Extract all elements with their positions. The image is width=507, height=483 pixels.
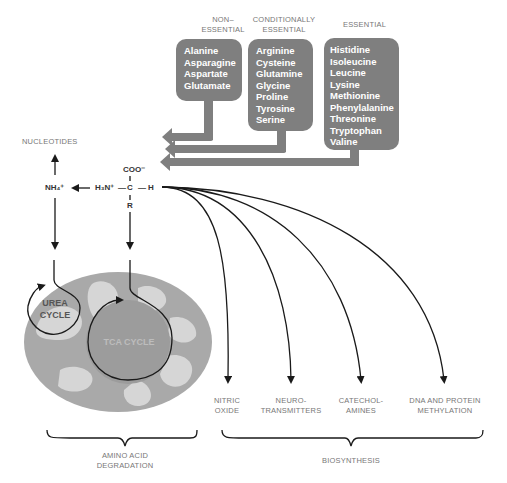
amino-acid: Proline: [256, 91, 313, 103]
product-catecholamines: CATECHOL- AMINES: [334, 396, 388, 416]
alpha-carbon: C: [127, 183, 133, 192]
amino-acid: Arginine: [256, 45, 313, 57]
product-line: OXIDE: [210, 406, 244, 416]
tca-cycle-label: TCA CYCLE: [98, 336, 160, 348]
amino-acid: Cysteine: [256, 57, 313, 69]
urea-cycle-label: UREA CYCLE: [35, 297, 75, 321]
amino-acid: Phenylalanine: [330, 102, 399, 114]
group-line: AMINO ACID: [90, 451, 160, 461]
header-conditionally-essential: CONDITIONALLY ESSENTIAL: [244, 15, 324, 35]
amino-acid: Alanine: [184, 45, 242, 57]
amino-acid: Glutamine: [256, 68, 313, 80]
header-line: ESSENTIAL: [198, 25, 248, 35]
bond: —: [138, 183, 146, 192]
amino-acid: Glutamate: [184, 80, 242, 92]
amino-acid: Lysine: [330, 79, 399, 91]
header-line: NON–: [198, 15, 248, 25]
header-line: ESSENTIAL: [332, 20, 397, 30]
product-nitric-oxide: NITRIC OXIDE: [210, 396, 244, 416]
product-neurotransmitters: NEURO- TRANSMITTERS: [256, 396, 326, 416]
product-line: TRANSMITTERS: [256, 406, 326, 416]
biosynthesis-label: BIOSYNTHESIS: [315, 456, 387, 466]
header-line: CONDITIONALLY: [244, 15, 324, 25]
urea-line: UREA: [35, 297, 75, 309]
product-line: NEURO-: [256, 396, 326, 406]
amino-acid: Asparagine: [184, 57, 242, 69]
amino-acid: Threonine: [330, 113, 399, 125]
product-line: NITRIC: [210, 396, 244, 406]
biosynthesis-brace: [222, 430, 483, 446]
degradation-label: AMINO ACID DEGRADATION: [90, 451, 160, 471]
product-line: DNA AND PROTEIN: [400, 396, 490, 406]
amino-acid: Serine: [256, 114, 313, 126]
header-non-essential: NON– ESSENTIAL: [198, 15, 248, 35]
amino-acid: Methionine: [330, 90, 399, 102]
urea-line: CYCLE: [35, 309, 75, 321]
hydrogen-atom: H: [148, 183, 154, 192]
bond: —: [118, 183, 126, 192]
amino-acid: Aspartate: [184, 68, 242, 80]
amino-group: H₃N⁺: [95, 183, 114, 192]
non-essential-box: Alanine Asparagine Aspartate Glutamate: [176, 39, 242, 101]
amino-acid: Glycine: [256, 80, 313, 92]
product-line: CATECHOL-: [334, 396, 388, 406]
header-essential: ESSENTIAL: [332, 20, 397, 30]
amino-acid: Tyrosine: [256, 103, 313, 115]
degradation-brace: [47, 430, 197, 446]
amino-acid: Histidine: [330, 44, 399, 56]
header-line: ESSENTIAL: [244, 25, 324, 35]
side-chain: R: [127, 201, 133, 210]
carboxylate-group: COO⁻: [123, 165, 145, 174]
group-line: DEGRADATION: [90, 461, 160, 471]
amino-acid: Tryptophan: [330, 125, 399, 137]
amino-acid: Valine: [330, 136, 399, 148]
amino-acid: Leucine: [330, 67, 399, 79]
product-methylation: DNA AND PROTEIN METHYLATION: [400, 396, 490, 416]
ammonium-ion: NH₄⁺: [45, 183, 64, 192]
amino-acid: Isoleucine: [330, 56, 399, 68]
essential-box: Histidine Isoleucine Leucine Lysine Meth…: [324, 38, 399, 150]
nucleotides-label: NUCLEOTIDES: [22, 137, 78, 147]
product-line: METHYLATION: [400, 406, 490, 416]
conditionally-essential-box: Arginine Cysteine Glutamine Glycine Prol…: [248, 39, 313, 131]
product-line: AMINES: [334, 406, 388, 416]
